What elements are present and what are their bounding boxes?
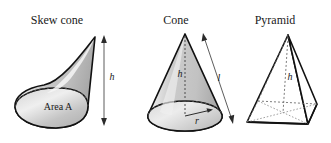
pyramid-shape [247, 35, 317, 124]
cone-title: Cone [163, 13, 188, 27]
cone-slant-height-label: l [218, 72, 221, 83]
skew-cone-height-arrow [101, 35, 107, 126]
pyramid-height-label: h [288, 71, 293, 82]
cone-shape [148, 34, 222, 131]
cone-radius-label: r [195, 115, 199, 126]
area-word: Area A [44, 101, 73, 112]
skew-cone-title: Skew cone [31, 13, 83, 27]
pyramid-title: Pyramid [255, 13, 296, 27]
cone-height-label: h [178, 68, 183, 79]
geometry-figure-solids: Skew cone Area A h Cone h l r [0, 0, 331, 143]
skew-cone-shape [15, 37, 95, 128]
figure-canvas: Skew cone Area A h Cone h l r [0, 0, 331, 143]
skew-cone-height-label: h [110, 71, 115, 82]
skew-cone-area-label: Area A [44, 101, 73, 112]
